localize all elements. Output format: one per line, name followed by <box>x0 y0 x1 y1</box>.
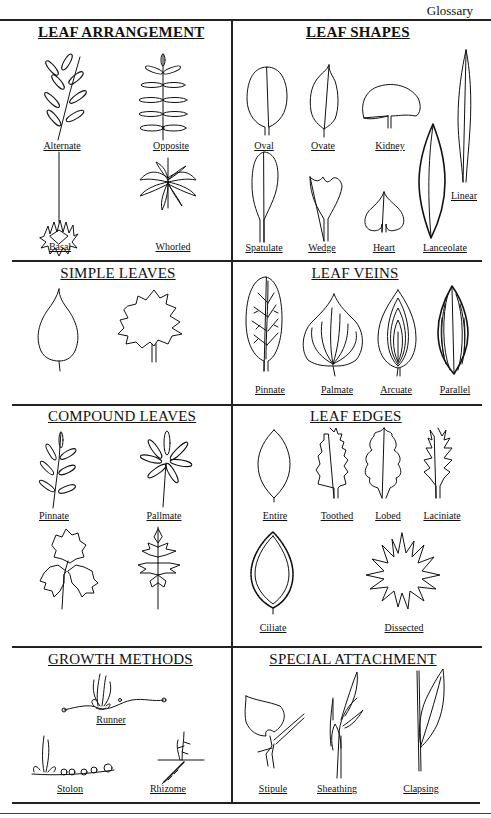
label-linear: Linear <box>451 190 477 201</box>
label-stipule: Stipule <box>259 783 287 794</box>
section-title-leaf-shapes: LEAF SHAPES <box>306 24 406 41</box>
section-title-compound-leaves: COMPOUND LEAVES <box>48 408 190 425</box>
row-divider-2 <box>12 404 482 406</box>
alternate-arrangement-illustration <box>40 52 90 142</box>
pinnate-veins-illustration <box>244 275 284 375</box>
kidney-leaf-illustration <box>360 80 422 134</box>
pinnate-compound-illustration <box>37 430 77 510</box>
toothed-edge-illustration <box>314 426 358 502</box>
label-heart: Heart <box>373 242 395 253</box>
label-arcuate-veins: Arcuate <box>380 384 412 395</box>
sheathing-attachment-illustration <box>311 670 363 780</box>
row-divider-1 <box>12 260 482 262</box>
maple-leaf-illustration <box>116 288 190 364</box>
lanceolate-leaf-illustration <box>417 122 447 242</box>
entire-edge-illustration <box>256 428 292 504</box>
top-rule <box>0 19 491 21</box>
whorled-arrangement-illustration <box>138 158 198 228</box>
heart-leaf-illustration <box>362 190 408 236</box>
label-whorled: Whorled <box>156 241 191 252</box>
opposite-arrangement-illustration <box>138 52 188 142</box>
label-laciniate: Laciniate <box>423 510 460 521</box>
center-divider <box>231 19 233 803</box>
label-dissected: Dissected <box>385 622 424 633</box>
label-clapsing: Clapsing <box>403 783 439 794</box>
label-rhizome: Rhizome <box>150 783 186 794</box>
runner-growth-illustration <box>60 670 170 716</box>
laciniate-edge-illustration <box>420 426 456 502</box>
label-ciliate: Ciliate <box>260 622 287 633</box>
section-title-leaf-edges: LEAF EDGES <box>310 408 400 425</box>
section-title-leaf-arrangement: LEAF ARRANGEMENT <box>38 24 200 41</box>
section-title-special-attachment: SPECIAL ATTACHMENT <box>268 651 438 668</box>
label-toothed: Toothed <box>321 510 354 521</box>
label-basal: Basal <box>49 241 71 252</box>
label-opposite: Opposite <box>153 140 189 151</box>
label-stolon: Stolon <box>57 783 83 794</box>
page-header-title: Glossary <box>427 3 473 19</box>
label-pinnate-veins: Pinnate <box>255 384 285 395</box>
section-title-simple-leaves: SIMPLE LEAVES <box>58 265 178 282</box>
label-palmate-veins: Palmate <box>321 384 353 395</box>
lobed-edge-illustration <box>362 426 406 502</box>
trifoliate-compound-illustration <box>38 525 100 611</box>
label-sheathing: Sheathing <box>317 783 357 794</box>
label-pinnate-compound: Pinnate <box>39 510 69 521</box>
arcuate-veins-illustration <box>376 288 418 378</box>
bipinnate-compound-illustration <box>136 525 182 611</box>
clapsing-attachment-illustration <box>407 667 447 777</box>
palmate-veins-illustration <box>300 292 366 378</box>
dissected-edge-illustration <box>364 531 444 611</box>
oval-leaf-illustration <box>245 65 289 139</box>
section-title-growth-methods: GROWTH METHODS <box>48 651 188 668</box>
linear-leaf-illustration <box>454 48 474 188</box>
bottom-rule-inner <box>12 802 480 804</box>
label-spatulate: Spatulate <box>245 242 282 253</box>
label-ovate: Ovate <box>311 140 335 151</box>
stipule-attachment-illustration <box>244 692 306 782</box>
label-entire: Entire <box>263 510 287 521</box>
rhizome-growth-illustration <box>156 730 206 786</box>
label-parallel-veins: Parallel <box>440 384 471 395</box>
palmate-compound-illustration <box>139 429 195 509</box>
row-divider-3 <box>12 646 482 648</box>
label-wedge: Wedge <box>308 242 336 253</box>
label-runner: Runner <box>96 714 125 725</box>
label-palmate-compound: Pallmate <box>147 510 182 521</box>
section-title-leaf-veins: LEAF VEINS <box>310 265 400 282</box>
label-lobed: Lobed <box>375 510 401 521</box>
stolon-growth-illustration <box>28 732 118 778</box>
label-lanceolate: Lanceolate <box>423 242 467 253</box>
ovate-leaf-illustration <box>307 63 341 143</box>
bottom-rule-outer <box>0 813 491 814</box>
spatulate-leaf-illustration <box>250 150 280 246</box>
simple-leaf-illustration <box>35 287 81 373</box>
ciliate-edge-illustration <box>249 530 295 614</box>
wedge-leaf-illustration <box>306 175 346 245</box>
parallel-veins-illustration <box>436 284 470 376</box>
label-kidney: Kidney <box>375 140 404 151</box>
